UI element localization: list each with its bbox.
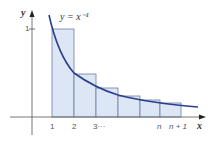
x-tick-n: n [157,122,162,131]
x-tick-n-plus-1: n + 1 [169,122,187,131]
y-arrow-icon [30,10,35,17]
x-tick-2: 2 [72,122,77,131]
x-arrow-icon [199,115,206,120]
y-tick-1: 1 [25,24,30,33]
y-axis-label: y [20,7,26,18]
x-tick-3: 3··· [93,122,105,131]
x-tick-1: 1 [50,122,55,131]
axes [10,16,201,135]
x-axis-label: x [196,120,202,131]
diagram: y x y = x⁻¹ 1 1 2 3··· n n + 1 [0,0,214,144]
curve-label: y = x⁻¹ [59,11,89,22]
